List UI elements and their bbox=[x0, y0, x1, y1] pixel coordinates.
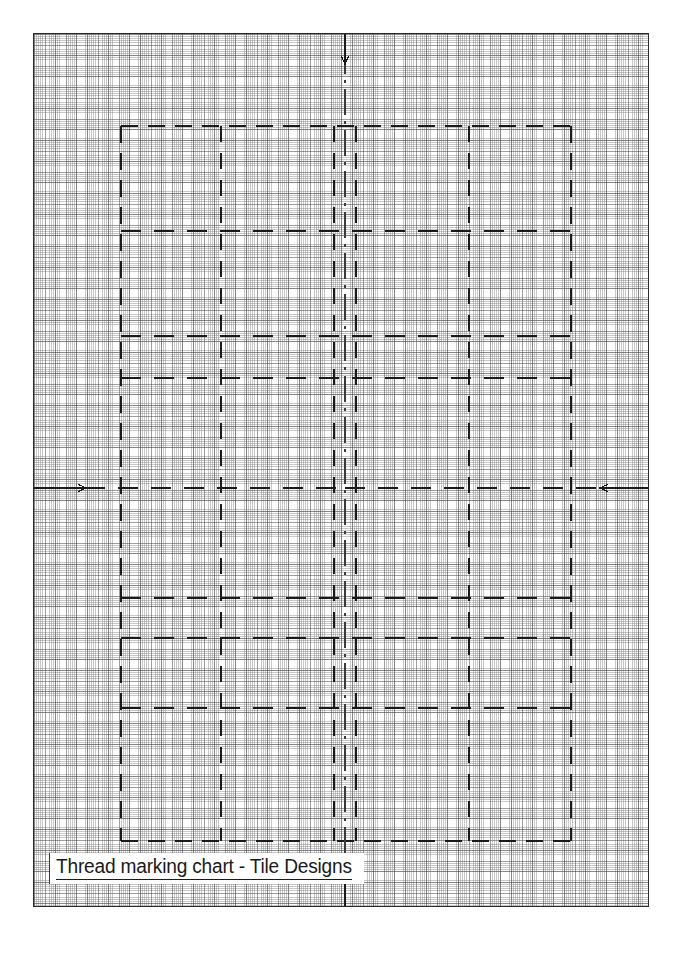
graph-paper-sheet: Thread marking chart - Tile Designs bbox=[33, 33, 649, 907]
dimension-arrows bbox=[34, 34, 649, 907]
horizontal-tile-dividers bbox=[121, 231, 571, 708]
title-plate: Thread marking chart - Tile Designs bbox=[49, 853, 364, 884]
chart-title: Thread marking chart - Tile Designs bbox=[56, 855, 352, 880]
outer-rectangle-dashed bbox=[121, 126, 571, 841]
page-canvas: Thread marking chart - Tile Designs bbox=[0, 0, 682, 976]
technical-drawing bbox=[34, 34, 649, 907]
